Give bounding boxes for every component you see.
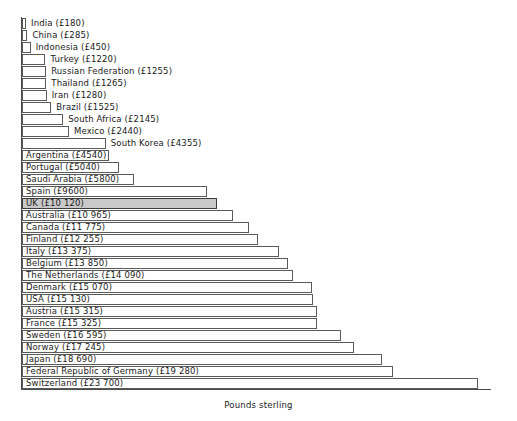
bar-label: Spain (£9600) xyxy=(26,185,88,197)
bar[interactable] xyxy=(22,66,46,77)
bar-label: France (£15 325) xyxy=(26,317,101,329)
bar-label: Portugal (£5040) xyxy=(26,161,100,173)
bar-label: Belgium (£13 850) xyxy=(26,257,108,269)
bar[interactable] xyxy=(22,54,45,65)
bar[interactable] xyxy=(22,18,26,29)
bar-label: Australia (£10 965) xyxy=(26,209,111,221)
bar-label: Switzerland (£23 700) xyxy=(26,377,123,389)
bar-label: Iran (£1280) xyxy=(52,89,107,101)
bar-label: China (£285) xyxy=(32,29,89,41)
bar-label: Indonesia (£450) xyxy=(36,41,110,53)
bar[interactable] xyxy=(22,30,27,41)
bar-label: Thailand (£1265) xyxy=(51,77,126,89)
bar-label: Brazil (£1525) xyxy=(56,101,118,113)
bar-label: Mexico (£2440) xyxy=(74,125,142,137)
bar-label: UK (£10 120) xyxy=(26,197,84,209)
bar-label: The Netherlands (£14 090) xyxy=(26,269,145,281)
bar[interactable] xyxy=(22,90,47,101)
x-axis-line xyxy=(21,389,491,390)
bar-label: Sweden (£16 595) xyxy=(26,329,106,341)
bar-label: Argentina (£4540) xyxy=(26,149,106,161)
bar-label: Italy (£13 375) xyxy=(26,245,91,257)
bar-label: USA (£15 130) xyxy=(26,293,90,305)
bar[interactable] xyxy=(22,126,69,137)
bar-label: India (£180) xyxy=(31,17,85,29)
bar-label: Turkey (£1220) xyxy=(50,53,116,65)
bar[interactable] xyxy=(22,78,46,89)
bar-label: Denmark (£15 070) xyxy=(26,281,112,293)
bar-label: South Korea (£4355) xyxy=(111,137,202,149)
bar-label: Austria (£15 315) xyxy=(26,305,103,317)
bar-label: Norway (£17 245) xyxy=(26,341,105,353)
bar-label: Canada (£11 775) xyxy=(26,221,105,233)
plot-area: India (£180)China (£285)Indonesia (£450)… xyxy=(0,0,517,421)
bar-label: South Africa (£2145) xyxy=(68,113,159,125)
x-axis-title: Pounds sterling xyxy=(0,400,517,410)
bar[interactable] xyxy=(22,138,106,149)
bar-label: Japan (£18 690) xyxy=(26,353,96,365)
bar[interactable] xyxy=(22,102,51,113)
bar-label: Federal Republic of Germany (£19 280) xyxy=(26,365,199,377)
bar[interactable] xyxy=(22,114,63,125)
bar[interactable] xyxy=(22,42,31,53)
bar-label: Finland (£12 255) xyxy=(26,233,103,245)
bar-label: Saudi Arabia (£5800) xyxy=(26,173,119,185)
bar-chart: India (£180)China (£285)Indonesia (£450)… xyxy=(0,0,517,421)
bar-label: Russian Federation (£1255) xyxy=(51,65,172,77)
